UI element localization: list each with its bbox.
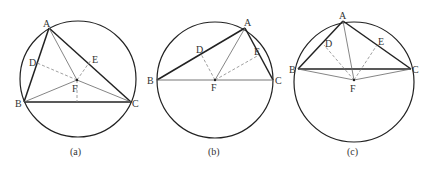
circumcircle (294, 22, 414, 142)
figure-a: A B C D E F (a) (15, 18, 139, 158)
label-a: A (43, 18, 51, 29)
label-d: D (325, 38, 332, 49)
segment-fa (215, 28, 245, 80)
label-e: E (378, 36, 384, 47)
segment-fb (24, 80, 77, 102)
label-f: F (72, 83, 78, 94)
label-b: B (147, 75, 154, 86)
side-ab (298, 21, 343, 69)
label-b: B (15, 98, 22, 109)
point-f (76, 79, 78, 81)
caption-b: (b) (208, 146, 220, 158)
label-a: A (339, 10, 347, 21)
label-c: C (412, 64, 419, 75)
perpendicular-fd (37, 63, 77, 80)
label-c: C (275, 75, 282, 86)
label-d: D (196, 44, 203, 55)
label-a: A (244, 17, 252, 28)
caption-a: (a) (70, 146, 81, 158)
side-ac (49, 28, 131, 102)
segment-fc (77, 80, 131, 102)
label-b: B (289, 64, 296, 75)
geometry-figures: A B C D E F (a) A B C D E F (b) A (0, 0, 438, 171)
perpendicular-fe (77, 60, 91, 80)
figure-c: A B C D E F (c) (289, 10, 419, 158)
label-f: F (211, 82, 217, 93)
label-e: E (92, 54, 98, 65)
segment-fa (49, 28, 77, 80)
perpendicular-fe (215, 55, 259, 80)
label-d: D (29, 57, 36, 68)
caption-c: (c) (347, 146, 358, 158)
point-f (353, 79, 355, 81)
perpendicular-fd (201, 54, 215, 80)
segment-fa (343, 21, 354, 80)
segment-fc (354, 69, 411, 80)
label-f: F (350, 83, 356, 94)
figure-b: A B C D E F (b) (147, 17, 282, 158)
label-c: C (132, 98, 139, 109)
point-f (214, 79, 216, 81)
label-e: E (254, 46, 260, 57)
perpendicular-fe (354, 45, 377, 80)
